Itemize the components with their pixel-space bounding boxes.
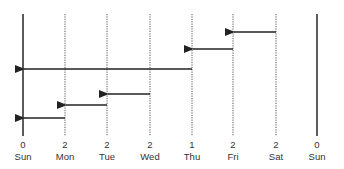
day-label: Wed [130,151,170,162]
day-label: Sun [3,151,43,162]
count-label: 0 [297,139,337,150]
day-label: Fri [213,151,253,162]
count-label: 2 [130,139,170,150]
day-label: Sat [256,151,296,162]
count-label: 2 [256,139,296,150]
day-label: Tue [87,151,127,162]
count-label: 2 [87,139,127,150]
count-label: 0 [3,139,43,150]
count-label: 1 [172,139,212,150]
day-label: Mon [45,151,85,162]
day-label: Thu [172,151,212,162]
day-label: Sun [297,151,337,162]
count-label: 2 [45,139,85,150]
count-label: 2 [213,139,253,150]
